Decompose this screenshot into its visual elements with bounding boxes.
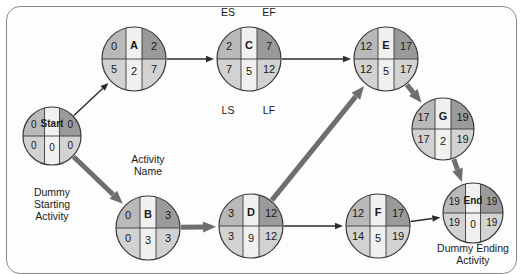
node-end-duration: 0 <box>470 219 476 230</box>
node-end[interactable]: 19191919End0 <box>441 181 505 245</box>
dummy-ending-activity-label: Dummy Ending Activity <box>419 242 523 266</box>
node-start[interactable]: 0000Start0 <box>21 105 83 167</box>
activity-name-callout: Activity Name <box>108 153 188 177</box>
node-c[interactable]: 27712C5 <box>215 25 283 93</box>
node-b-ls-value: 0 <box>125 232 131 244</box>
node-g-duration: 2 <box>440 135 446 147</box>
ef-annotation-label: EF <box>254 6 284 18</box>
node-end-lf-value: 19 <box>486 217 498 228</box>
node-g-es-value: 17 <box>417 111 429 123</box>
node-a-ls-value: 5 <box>111 63 117 75</box>
node-g-name: G <box>439 110 448 122</box>
node-f-name: F <box>375 206 382 218</box>
node-c-duration: 5 <box>246 65 252 77</box>
node-a-lf-value: 7 <box>151 63 157 75</box>
node-f-duration: 5 <box>375 232 381 244</box>
node-g[interactable]: 17191719G2 <box>410 96 476 162</box>
node-start-ls-value: 0 <box>31 140 37 151</box>
node-e-duration: 5 <box>383 65 389 77</box>
node-d-ef-value: 12 <box>265 207 277 219</box>
node-start-name: Start <box>41 118 64 129</box>
node-c-name: C <box>245 39 253 51</box>
node-e[interactable]: 12171217E5 <box>352 25 420 93</box>
ls-annotation-label: LS <box>213 104 243 116</box>
node-a-duration: 2 <box>131 65 137 77</box>
node-end-es-value: 19 <box>449 196 461 207</box>
node-a[interactable]: 0257A2 <box>100 25 168 93</box>
node-f-lf-value: 19 <box>392 230 404 242</box>
lf-annotation-label: LF <box>254 104 284 116</box>
node-d-lf-value: 12 <box>265 230 277 242</box>
node-d-ls-value: 3 <box>228 230 234 242</box>
dummy-starting-activity-label: Dummy Starting Activity <box>12 186 92 222</box>
node-f-es-value: 12 <box>352 207 364 219</box>
node-f-ls-value: 14 <box>352 230 364 242</box>
node-e-ef-value: 17 <box>400 40 412 52</box>
node-c-ef-value: 7 <box>266 40 272 52</box>
es-annotation-label: ES <box>213 6 243 18</box>
node-g-ls-value: 17 <box>417 133 429 145</box>
node-e-es-value: 12 <box>360 40 372 52</box>
node-d-es-value: 3 <box>228 207 234 219</box>
node-c-lf-value: 12 <box>263 63 275 75</box>
node-g-ef-value: 19 <box>456 111 468 123</box>
node-g-lf-value: 19 <box>456 133 468 145</box>
node-b-ef-value: 3 <box>165 209 171 221</box>
node-b[interactable]: 0303B3 <box>114 194 182 262</box>
node-a-ef-value: 2 <box>151 40 157 52</box>
node-c-ls-value: 7 <box>226 63 232 75</box>
node-end-ef-value: 19 <box>486 196 498 207</box>
node-a-es-value: 0 <box>111 40 117 52</box>
node-end-name: End <box>464 195 483 206</box>
node-e-lf-value: 17 <box>400 63 412 75</box>
node-start-es-value: 0 <box>31 119 37 130</box>
node-start-lf-value: 0 <box>67 140 73 151</box>
node-d-duration: 9 <box>248 232 254 244</box>
node-e-name: E <box>382 39 389 51</box>
node-a-name: A <box>130 39 138 51</box>
node-b-name: B <box>144 208 152 220</box>
node-b-lf-value: 3 <box>165 232 171 244</box>
node-c-es-value: 2 <box>226 40 232 52</box>
node-start-duration: 0 <box>49 142 55 153</box>
node-e-ls-value: 12 <box>360 63 372 75</box>
node-f-ef-value: 17 <box>392 207 404 219</box>
node-d-name: D <box>247 206 255 218</box>
node-b-duration: 3 <box>145 234 151 246</box>
node-start-ef-value: 0 <box>67 119 73 130</box>
node-end-ls-value: 19 <box>449 217 461 228</box>
node-f[interactable]: 12171419F5 <box>344 192 412 260</box>
node-d[interactable]: 312312D9 <box>217 192 285 260</box>
node-b-es-value: 0 <box>125 209 131 221</box>
